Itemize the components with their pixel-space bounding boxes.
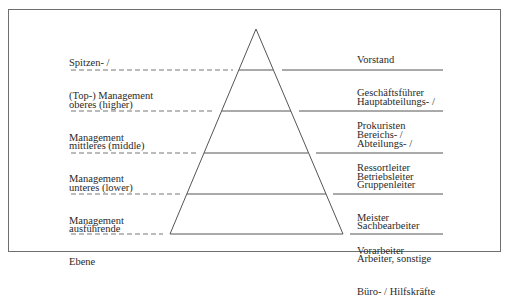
label-line: Sachbearbeiter (357, 220, 435, 231)
label-line: Gruppenleiter (357, 179, 415, 190)
label-line: Arbeiter, sonstige (357, 253, 435, 264)
label-line: ausführende (69, 223, 120, 234)
left-label-operational-level: ausführende Ebene (69, 201, 120, 278)
label-line: unteres (lower) (69, 182, 133, 193)
label-line: oberes (higher) (69, 99, 133, 110)
label-line: Abteilungs- / (357, 138, 414, 149)
label-line: Hauptabteilungs- / (357, 96, 435, 107)
right-label-operational-roles: Sachbearbeiter Arbeiter, sonstige Büro- … (357, 198, 435, 299)
label-line: Vorstand (357, 54, 424, 65)
label-line: mittleres (middle) (69, 140, 145, 151)
label-line: Spitzen- / (69, 57, 153, 68)
label-line: Ebene (69, 256, 120, 267)
pyramid-outline (170, 29, 343, 234)
label-line: Büro- / Hilfskräfte (357, 286, 435, 297)
